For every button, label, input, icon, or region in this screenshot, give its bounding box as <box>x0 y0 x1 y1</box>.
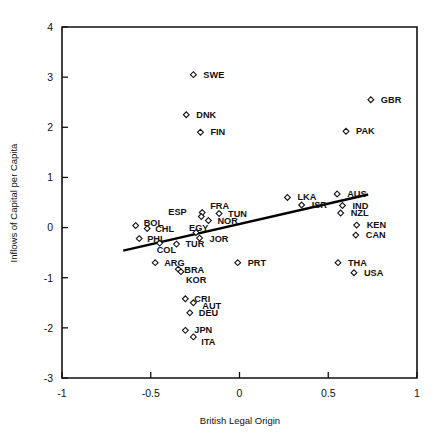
data-point-label: JPN <box>194 325 212 335</box>
data-point-marker <box>235 260 241 266</box>
y-tick-label: 0 <box>47 221 53 233</box>
x-tick-label: 0.5 <box>321 387 336 399</box>
data-point-label: CHL <box>155 224 174 234</box>
data-point-label: PRT <box>248 258 267 268</box>
y-tick-label: 2 <box>47 121 53 133</box>
data-point-label: PAK <box>356 126 375 136</box>
data-point-label: JOR <box>210 234 229 244</box>
y-tick-label: 4 <box>47 21 53 33</box>
data-point-label: CAN <box>366 230 386 240</box>
data-point-marker <box>182 296 188 302</box>
data-point-marker <box>299 202 305 208</box>
data-point-marker <box>343 128 349 134</box>
data-point-label: ITA <box>201 337 215 347</box>
data-point-label: ARG <box>164 258 184 268</box>
x-tick-label: 0 <box>237 387 243 399</box>
data-point-marker <box>368 97 374 103</box>
x-tick-label: -1 <box>57 387 66 399</box>
data-point-label: EGY <box>189 223 208 233</box>
data-point-label: FIN <box>210 127 225 137</box>
data-point-marker <box>335 260 341 266</box>
y-tick-label: 3 <box>47 71 53 83</box>
data-point-marker <box>187 310 193 316</box>
data-point-label: DEU <box>199 308 219 318</box>
data-point-marker <box>340 203 346 209</box>
data-point-label: NOR <box>217 216 238 226</box>
data-point-marker <box>285 195 291 201</box>
scatter-plot-figure: -1-0.500.51 -3-2-101234 SWEGBRDNKFINPAKL… <box>0 0 438 442</box>
y-tick-label: 1 <box>47 171 53 183</box>
data-point-label: NZL <box>351 208 369 218</box>
data-point-label: USA <box>364 268 384 278</box>
data-point-label: PHL <box>147 234 166 244</box>
data-point-label: THA <box>348 258 367 268</box>
data-point-label: BRA <box>184 265 204 275</box>
data-point-label: COL <box>157 245 177 255</box>
data-point-labels: SWEGBRDNKFINPAKLKAAUSISRINDNZLFRAESPTUNN… <box>144 70 402 347</box>
x-tick-label: 1 <box>414 387 420 399</box>
data-point-marker <box>353 232 359 238</box>
data-point-marker <box>334 191 340 197</box>
data-point-marker <box>338 210 344 216</box>
data-point-marker <box>152 260 158 266</box>
y-tick-label: -3 <box>44 372 53 384</box>
data-point-marker <box>183 112 189 118</box>
data-point-marker <box>182 327 188 333</box>
data-point-marker <box>354 222 360 228</box>
data-point-label: KOR <box>186 275 207 285</box>
data-point-label: AUS <box>347 189 366 199</box>
x-tick-label: -0.5 <box>142 387 160 399</box>
data-point-label: SWE <box>203 70 224 80</box>
data-point-label: DNK <box>196 110 216 120</box>
chart-canvas: -1-0.500.51 -3-2-101234 SWEGBRDNKFINPAKL… <box>0 0 438 442</box>
data-point-label: KEN <box>367 220 387 230</box>
y-tick-label: -2 <box>44 322 53 334</box>
data-point-label: ESP <box>168 207 186 217</box>
data-point-label: FRA <box>210 201 229 211</box>
y-axis-ticks <box>62 27 68 378</box>
data-point-label: GBR <box>381 95 402 105</box>
y-axis-tick-labels: -3-2-101234 <box>44 21 54 384</box>
y-tick-label: -1 <box>44 272 53 284</box>
x-axis-label: British Legal Origin <box>200 415 280 426</box>
data-point-marker <box>198 129 204 135</box>
data-point-label: ISR <box>312 200 328 210</box>
data-point-label: TUR <box>185 239 204 249</box>
data-point-marker <box>133 223 139 229</box>
x-axis-tick-labels: -1-0.500.51 <box>57 387 420 399</box>
x-axis-ticks <box>62 372 417 378</box>
data-point-marker <box>190 72 196 78</box>
data-point-marker <box>136 236 142 242</box>
y-axis-label: Inflows of Capital per Capita <box>8 143 19 263</box>
data-point-marker <box>351 270 357 276</box>
